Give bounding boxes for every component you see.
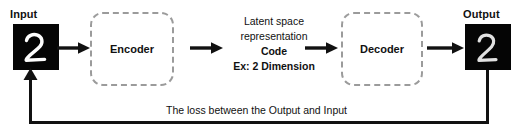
output-digit-image [465, 24, 511, 70]
arrow-decoder-to-output-icon [427, 41, 465, 55]
arrow-encoder-to-latent-icon [190, 41, 224, 55]
encoder-module: Encoder [90, 12, 174, 86]
decoder-module: Decoder [341, 12, 423, 86]
input-digit-image [13, 24, 59, 70]
decoder-label: Decoder [360, 43, 404, 55]
arrow-latent-to-decoder-icon [305, 41, 339, 55]
loss-caption: The loss between the Output and Input [0, 104, 513, 116]
autoencoder-diagram: Input Encoder Latent space representatio… [0, 0, 513, 132]
latent-line-1: Latent space [224, 14, 324, 29]
latent-dimension-label: Ex: 2 Dimension [224, 59, 324, 74]
encoder-label: Encoder [110, 43, 154, 55]
input-label: Input [10, 8, 37, 20]
arrow-input-to-encoder-icon [57, 41, 91, 55]
output-label: Output [463, 8, 500, 20]
